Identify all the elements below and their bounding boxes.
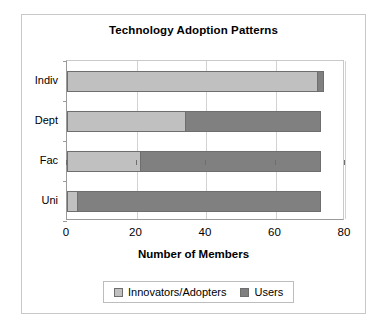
bar-segment	[67, 151, 140, 172]
x-axis-tick-label: 80	[324, 226, 364, 238]
legend-item[interactable]: Users	[240, 286, 283, 298]
legend-label: Users	[254, 286, 283, 298]
x-axis-tick	[205, 160, 206, 165]
legend-swatch-icon	[240, 288, 249, 297]
y-axis-tick	[63, 101, 67, 102]
bar-row	[67, 111, 321, 132]
x-axis-tick-label: 40	[185, 226, 225, 238]
y-axis-tick	[63, 61, 67, 62]
bar-row	[67, 71, 324, 92]
legend-swatch-icon	[114, 288, 123, 297]
y-axis-tick	[63, 181, 67, 182]
y-axis-tick	[63, 141, 67, 142]
plot-area	[66, 60, 344, 220]
x-axis-title: Number of Members	[21, 248, 366, 260]
x-axis-tick	[344, 160, 345, 165]
x-axis-tick	[136, 160, 137, 165]
chart-title: Technology Adoption Patterns	[21, 24, 366, 36]
y-axis-category-label: Dept	[0, 110, 58, 131]
x-axis-tick-label: 0	[46, 226, 86, 238]
legend-item[interactable]: Innovators/Adopters	[114, 286, 226, 298]
gridline	[345, 61, 346, 219]
bar-segment	[67, 71, 317, 92]
y-axis-category-label: Uni	[0, 190, 58, 211]
bar-segment	[317, 71, 324, 92]
x-axis-tick-label: 60	[255, 226, 295, 238]
bar-segment	[185, 111, 321, 132]
y-axis-tick	[63, 221, 67, 222]
x-axis-tick	[275, 160, 276, 165]
bar-row	[67, 191, 321, 212]
bar-row	[67, 151, 321, 172]
bar-segment	[77, 191, 320, 212]
chart-container: Technology Adoption Patterns Number of M…	[0, 0, 388, 329]
x-axis-tick	[66, 160, 67, 165]
legend-label: Innovators/Adopters	[128, 286, 226, 298]
bar-segment	[67, 191, 77, 212]
bar-segment	[67, 111, 185, 132]
y-axis-category-label: Indiv	[0, 70, 58, 91]
y-axis-category-label: Fac	[0, 150, 58, 171]
chart-legend: Innovators/AdoptersUsers	[103, 281, 294, 303]
x-axis-tick-label: 20	[116, 226, 156, 238]
bar-segment	[140, 151, 321, 172]
